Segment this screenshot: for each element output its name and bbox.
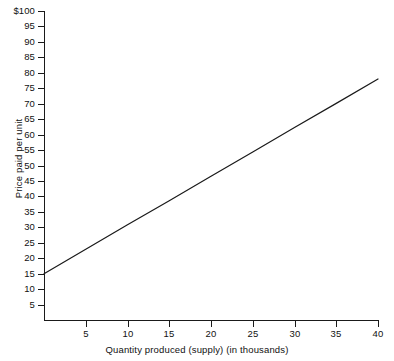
plot-area: [0, 0, 394, 361]
y-axis-title: Price paid per unit: [13, 79, 24, 239]
supply-curve-chart: 5101520253035404550556065707580859095$10…: [0, 0, 394, 361]
x-axis-title: Quantity produced (supply) (in thousands…: [0, 344, 394, 355]
supply-curve-line: [44, 79, 378, 274]
